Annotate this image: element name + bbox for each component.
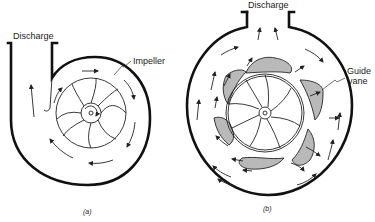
guide-vane — [239, 157, 284, 169]
guide-vane — [223, 70, 246, 104]
guide-vane-leader-line — [322, 78, 345, 90]
guide-vane-label-line2: vane — [348, 76, 368, 86]
discharge-label-b: Discharge — [248, 0, 289, 10]
caption-b: (b) — [263, 205, 272, 213]
impeller-b — [226, 74, 304, 152]
pump-diagram-figure: Discharge Impeller (a) — [0, 0, 375, 222]
caption-a: (a) — [83, 208, 92, 216]
guide-vane-label-line1: Guide — [347, 66, 371, 76]
impeller-label: Impeller — [133, 56, 165, 66]
discharge-label-a: Discharge — [13, 31, 54, 41]
guide-vane — [246, 57, 292, 73]
impeller-a — [56, 78, 126, 148]
flow-arrows-a — [31, 71, 135, 163]
panel-a-volute-pump: Discharge Impeller (a) — [8, 31, 165, 216]
cutwater — [44, 78, 52, 111]
panel-b-diffuser-pump: Discharge Guide vane (b) — [187, 0, 371, 213]
guide-vane — [300, 80, 323, 120]
volute-casing — [8, 43, 150, 185]
